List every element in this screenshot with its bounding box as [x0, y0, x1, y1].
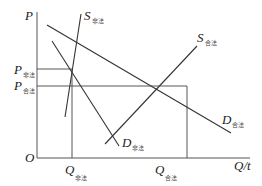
supply-legal-label: S合法 — [197, 30, 217, 47]
quantity-legal-label: Q合法 — [155, 162, 177, 182]
demand-legal-label: D合法 — [221, 112, 244, 129]
demand-illegal-label: D非法 — [121, 135, 144, 152]
supply-legal-curve — [105, 46, 197, 144]
demand-illegal-curve — [52, 41, 119, 146]
price-illegal-label: P非法 — [13, 62, 35, 79]
supply-illegal-label: S非法 — [84, 8, 104, 25]
y-axis-label: P — [24, 8, 33, 23]
origin-label: O — [25, 150, 35, 165]
supply-demand-diagram: P O Q/t D合法 S非法 D非法 S合法 P非法 P合法 Q非法 Q合法 — [0, 0, 262, 186]
quantity-illegal-label: Q非法 — [65, 162, 87, 182]
x-axis-label: Q/t — [234, 158, 251, 173]
price-legal-label: P合法 — [13, 78, 35, 95]
